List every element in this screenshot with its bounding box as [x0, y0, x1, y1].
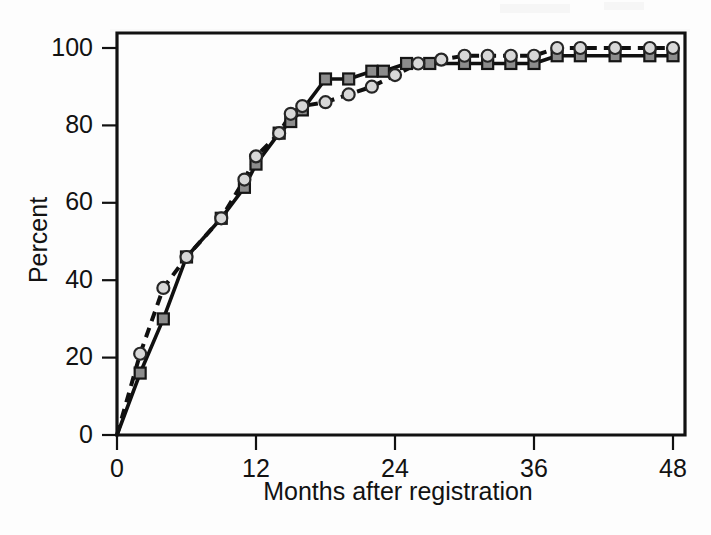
data-point-circle [435, 54, 447, 66]
x-tick-label: 48 [659, 454, 687, 482]
data-point-circle [296, 100, 308, 112]
y-tick-label: 20 [65, 342, 93, 370]
data-point-circle [667, 42, 679, 54]
chart-plot: 020406080100 012243648 Percent Months af… [0, 0, 711, 535]
data-point-circle [551, 42, 563, 54]
x-axis-ticks: 012243648 [110, 435, 687, 482]
data-point-circle [250, 150, 262, 162]
data-point-circle [574, 42, 586, 54]
y-axis-ticks: 020406080100 [51, 33, 117, 448]
data-point-circle [343, 88, 355, 100]
y-tick-label: 80 [65, 110, 93, 138]
data-point-circle [528, 50, 540, 62]
y-axis-title: Percent [24, 197, 52, 283]
data-point-circle [609, 42, 621, 54]
data-point-square [401, 58, 412, 69]
series-line-dashed-circle-series [117, 48, 673, 435]
data-point-square [378, 66, 389, 77]
axis-frame [117, 33, 685, 435]
data-point-circle [412, 57, 424, 69]
x-tick-label: 0 [110, 454, 124, 482]
data-point-circle [644, 42, 656, 54]
data-point-circle [366, 81, 378, 93]
data-point-circle [215, 212, 227, 224]
axis-frame-group [117, 33, 685, 435]
chart-figure: 020406080100 012243648 Percent Months af… [0, 0, 711, 535]
y-tick-label: 0 [79, 420, 93, 448]
data-point-square [135, 368, 146, 379]
data-point-square [366, 66, 377, 77]
data-point-circle [285, 108, 297, 120]
data-point-circle [482, 50, 494, 62]
data-point-square [424, 58, 435, 69]
data-point-circle [459, 50, 471, 62]
data-point-circle [273, 127, 285, 139]
data-point-circle [238, 174, 250, 186]
data-point-circle [157, 282, 169, 294]
data-point-square [320, 73, 331, 84]
series-line-solid-square-series [117, 56, 673, 435]
y-tick-label: 40 [65, 265, 93, 293]
y-tick-label: 60 [65, 187, 93, 215]
y-tick-label: 100 [51, 33, 93, 61]
data-point-circle [320, 96, 332, 108]
data-point-circle [389, 69, 401, 81]
data-point-circle [505, 50, 517, 62]
data-point-square [343, 73, 354, 84]
data-point-square [158, 313, 169, 324]
data-point-circle [134, 348, 146, 360]
series-group [117, 42, 679, 435]
data-point-circle [181, 251, 193, 263]
x-axis-title: Months after registration [263, 477, 533, 505]
